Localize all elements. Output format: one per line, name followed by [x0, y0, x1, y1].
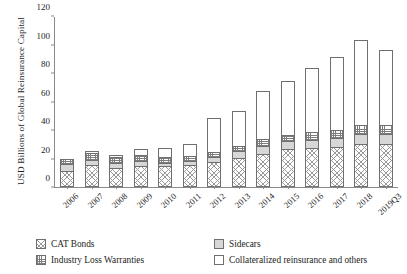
x-tick-mark: [214, 186, 215, 189]
bar-slot: [300, 17, 325, 187]
bar-segment: [159, 167, 171, 186]
x-tick-slot: 2012: [202, 189, 227, 223]
bar-segment: [184, 166, 196, 186]
bar-slot: [276, 17, 301, 187]
plot-area: 020406080100120: [54, 17, 398, 188]
legend-label: Sidecars: [229, 239, 261, 249]
y-tick-label: 0: [46, 173, 51, 183]
bar-segment: [257, 140, 269, 147]
x-tick-slot: 2016: [300, 189, 325, 223]
y-tick-label: 60: [41, 88, 50, 98]
legend-label: Industry Loss Warranties: [51, 255, 144, 265]
x-tick-label: 2017: [331, 191, 350, 210]
stacked-bar[interactable]: [354, 40, 368, 187]
bar-segment: [331, 139, 343, 147]
x-tick-mark: [116, 186, 117, 189]
x-tick-mark: [288, 186, 289, 189]
bar-segment: [257, 92, 269, 140]
chart-figure: USD Billions of Global Reinsurance Capit…: [0, 0, 407, 274]
x-tick-mark: [141, 186, 142, 189]
x-tick-slot: 2010: [153, 189, 178, 223]
x-tick-label: 2016: [306, 191, 325, 210]
x-tick-label: 2006: [61, 191, 80, 210]
stacked-bar[interactable]: [379, 50, 393, 188]
x-tick-mark: [386, 186, 387, 189]
swatch-collateralized-icon: [214, 255, 224, 265]
x-tick-slot: 2019Q3: [374, 189, 399, 223]
stacked-bar[interactable]: [134, 149, 148, 187]
legend-item[interactable]: Sidecars: [214, 239, 396, 249]
bar-segment: [355, 145, 367, 186]
y-tick-label: 20: [41, 145, 50, 155]
x-tick-slot: 2006: [55, 189, 80, 223]
swatch-sidecars-icon: [214, 239, 224, 249]
x-tick-label: 2013: [233, 191, 252, 210]
bar-segment: [282, 82, 294, 136]
bar-segment: [380, 51, 392, 126]
bar-segment: [331, 58, 343, 132]
stacked-bar[interactable]: [305, 68, 319, 187]
bar-segment: [306, 69, 318, 133]
legend-item[interactable]: CAT Bonds: [36, 239, 214, 249]
stacked-bar[interactable]: [207, 118, 221, 187]
bar-segment: [135, 167, 147, 186]
bar-segment: [380, 126, 392, 136]
x-tick-mark: [67, 186, 68, 189]
bar-segment: [61, 172, 73, 186]
bar-segment: [135, 156, 147, 163]
stacked-bar[interactable]: [158, 148, 172, 187]
stacked-bar[interactable]: [183, 144, 197, 187]
x-tick-slot: 2013: [227, 189, 252, 223]
legend-label: Collateralized reinsurance and others: [229, 255, 367, 265]
x-tick-mark: [312, 186, 313, 189]
bar-segment: [380, 135, 392, 145]
y-tick-mark: [51, 187, 54, 188]
stacked-bar[interactable]: [256, 91, 270, 187]
bar-segment: [331, 148, 343, 186]
stacked-bar[interactable]: [281, 81, 295, 187]
swatch-cat-bonds-icon: [36, 239, 46, 249]
stacked-bar[interactable]: [109, 155, 123, 187]
y-tick-mark: [51, 101, 54, 102]
swatch-ilw-icon: [36, 255, 46, 265]
x-tick-label: 2008: [110, 191, 129, 210]
bar-slot: [325, 17, 350, 187]
x-tick-slot: 2017: [325, 189, 350, 223]
bar-group: [55, 17, 398, 187]
bar-slot: [349, 17, 374, 187]
legend-item[interactable]: Industry Loss Warranties: [36, 255, 214, 265]
bar-segment: [282, 142, 294, 150]
bar-slot: [251, 17, 276, 187]
legend-item[interactable]: Collateralized reinsurance and others: [214, 255, 396, 265]
bar-slot: [129, 17, 154, 187]
x-tick-slot: 2009: [129, 189, 154, 223]
bar-segment: [331, 131, 343, 139]
y-tick-mark: [51, 130, 54, 131]
bar-segment: [86, 154, 98, 161]
bar-segment: [233, 159, 245, 186]
bar-slot: [104, 17, 129, 187]
bar-segment: [306, 141, 318, 149]
x-tick-mark: [337, 186, 338, 189]
bar-segment: [282, 150, 294, 186]
x-tick-slot: 2008: [104, 189, 129, 223]
x-axis-line: [54, 187, 398, 188]
bar-segment: [184, 145, 196, 157]
bar-segment: [208, 119, 220, 153]
stacked-bar[interactable]: [60, 159, 74, 187]
bar-slot: [153, 17, 178, 187]
bar-slot: [55, 17, 80, 187]
bar-segment: [355, 126, 367, 136]
y-tick-label: 120: [37, 2, 51, 12]
x-tick-mark: [239, 186, 240, 189]
x-axis-ticks: 2006200720082009201020112012201320142015…: [55, 189, 398, 223]
y-tick-mark: [51, 44, 54, 45]
stacked-bar[interactable]: [85, 151, 99, 187]
bar-slot: [374, 17, 399, 187]
stacked-bar[interactable]: [232, 111, 246, 187]
stacked-bar[interactable]: [330, 57, 344, 187]
y-tick-mark: [51, 73, 54, 74]
bar-segment: [159, 149, 171, 159]
y-tick-label: 40: [41, 116, 50, 126]
bar-segment: [306, 149, 318, 186]
